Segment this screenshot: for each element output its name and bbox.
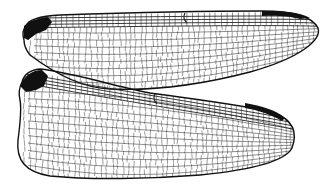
hindwing-base-dark bbox=[20, 70, 48, 92]
forewing-venation bbox=[24, 12, 323, 104]
forewing bbox=[23, 11, 323, 104]
hindwing bbox=[18, 69, 301, 187]
dragonfly-wings-illustration bbox=[0, 0, 325, 187]
forewing-pterostigma bbox=[262, 11, 310, 19]
